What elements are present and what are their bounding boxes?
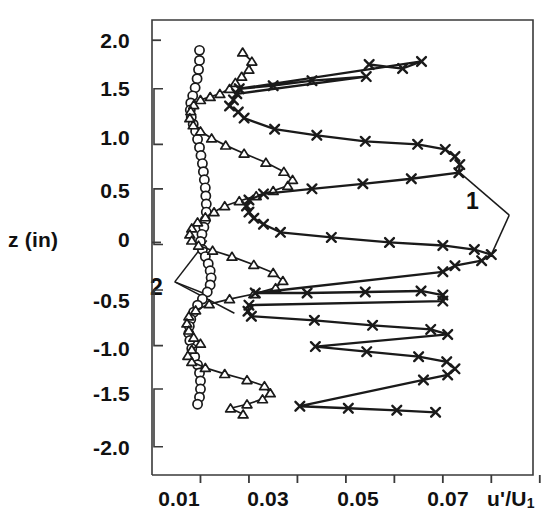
marker-triangles-58 <box>238 410 248 418</box>
plot-svg <box>0 0 556 528</box>
marker-circles-1 <box>195 56 204 65</box>
marker-triangles-17 <box>261 158 271 166</box>
figure-container: 2.0 1.5 1.0 0.5 0 -0.5 -1.0 -1.5 -2.0 z … <box>0 0 556 528</box>
axis-bracket-1 <box>154 89 163 145</box>
marker-triangles-7 <box>205 93 215 101</box>
marker-triangles-51 <box>220 370 230 378</box>
marker-triangles-18 <box>279 167 289 175</box>
leader-line-1-2 <box>491 215 509 254</box>
marker-triangles-53 <box>260 382 270 390</box>
marker-triangles-24 <box>220 202 230 210</box>
marker-triangles-2 <box>244 65 254 73</box>
series-line-crosses <box>230 61 492 412</box>
marker-circles-3 <box>192 74 201 83</box>
marker-circles-46 <box>193 400 202 409</box>
marker-triangles-52 <box>242 376 252 384</box>
leader-line-1-1 <box>460 173 509 215</box>
data-series-group <box>182 46 496 418</box>
marker-triangles-56 <box>242 400 252 408</box>
marker-triangles-35 <box>268 268 278 276</box>
marker-triangles-32 <box>208 246 218 254</box>
marker-circles-0 <box>195 46 204 55</box>
marker-triangles-33 <box>227 252 237 260</box>
marker-circles-2 <box>194 65 203 74</box>
marker-triangles-0 <box>238 48 248 56</box>
marker-triangles-39 <box>225 295 235 303</box>
marker-triangles-34 <box>249 260 259 268</box>
marker-triangles-15 <box>221 141 231 149</box>
marker-crosses-28 <box>259 220 268 229</box>
axis-bracket-group <box>154 89 163 447</box>
axis-bracket-4 <box>154 389 163 447</box>
series-crosses <box>225 57 496 417</box>
marker-triangles-16 <box>239 149 249 157</box>
axis-bracket-2 <box>154 189 163 245</box>
axis-bracket-3 <box>154 290 163 346</box>
marker-crosses-27 <box>249 214 258 223</box>
marker-triangles-6 <box>215 89 225 97</box>
marker-triangles-57 <box>226 404 236 412</box>
